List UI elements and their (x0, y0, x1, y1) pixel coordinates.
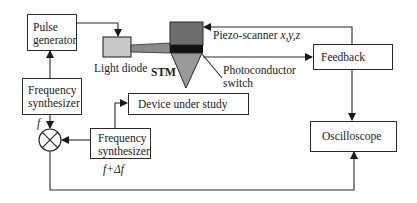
photoconductor-line1: Photoconductor (223, 64, 296, 77)
freq-synth-2-output-label: f+Δf (103, 163, 124, 176)
mixer-icon (39, 129, 61, 151)
synth2-to-device-arrow (115, 103, 127, 128)
light-diode-label: Light diode (94, 62, 147, 75)
device-under-study-block: Device under study (128, 93, 249, 115)
frequency-synthesizer-2-block: Frequency synthesizer (90, 128, 151, 159)
freq-synth-2-line1: Frequency (98, 132, 150, 145)
piezo-scanner-axes: x,y,z (280, 29, 300, 41)
photoconductor-switch-label: Photoconductor switch (223, 64, 296, 90)
piezo-scanner-label: Piezo-scanner x,y,z (213, 29, 300, 42)
light-diode-block (103, 37, 131, 57)
stm-scanner-body (170, 22, 203, 45)
oscilloscope-label: Oscilloscope (322, 130, 396, 143)
photoconductor-line2: switch (223, 77, 296, 90)
pulse-generator-block: Pulse generator (27, 14, 77, 51)
pulse-generator-line2: generator (33, 34, 76, 47)
pulse-to-diode-arrow (76, 23, 118, 36)
piezo-scanner-text: Piezo-scanner (213, 29, 280, 41)
feedback-block: Feedback (313, 44, 393, 70)
frequency-synthesizer-1-block: Frequency synthesizer (22, 78, 82, 115)
photoconductor-leader-line (202, 54, 222, 78)
light-beam (131, 43, 170, 53)
stm-photoconductor-band (170, 45, 203, 53)
feedback-label: Feedback (321, 51, 392, 64)
freq-synth-1-line1: Frequency (28, 84, 81, 97)
pulse-generator-line1: Pulse (33, 21, 76, 34)
oscilloscope-block: Oscilloscope (310, 121, 397, 152)
device-under-study-label: Device under study (138, 98, 248, 111)
freq-synth-1-line2: synthesizer (28, 97, 81, 110)
freq-synth-2-line2: synthesizer (98, 145, 150, 158)
stm-label: STM (151, 66, 176, 79)
freq-synth-1-output-label: f (37, 117, 40, 130)
